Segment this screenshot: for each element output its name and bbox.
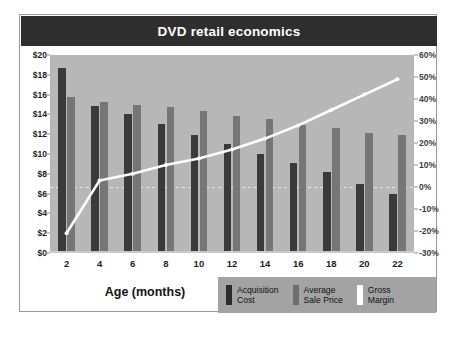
y-axis-right-tick-label: 10%	[419, 160, 436, 170]
y-axis-right-tick-label: 30%	[419, 116, 436, 126]
y-axis-right: -30%-20%-10%0%10%20%30%40%50%60%	[414, 55, 446, 253]
y-axis-left-tick-label: $10	[33, 149, 47, 159]
y-axis-right-tick-label: 50%	[419, 72, 436, 82]
line-swatch-white	[357, 285, 363, 305]
chart-card: DVD retail economics $0$2$4$6$8$10$12$14…	[19, 14, 437, 312]
y-axis-right-tick-label: -20%	[419, 226, 439, 236]
gross-margin-point	[164, 163, 168, 167]
y-axis-right-tick-mark	[414, 99, 418, 100]
y-axis-right-tick-mark	[414, 77, 418, 78]
gross-margin-point	[395, 77, 399, 81]
chart-screenshot: DVD retail economics $0$2$4$6$8$10$12$14…	[0, 0, 456, 340]
x-axis-tick-label: 16	[293, 258, 304, 269]
x-axis-tick-label: 2	[64, 258, 69, 269]
chart-title-bar: DVD retail economics	[21, 16, 437, 46]
x-axis-title: Age (months)	[60, 285, 230, 299]
y-axis-right-tick-label: 20%	[419, 138, 436, 148]
gross-margin-point	[296, 123, 300, 127]
y-axis-right-tick-mark	[414, 187, 418, 188]
gross-margin-point	[131, 172, 135, 176]
legend-item: Gross Margin	[357, 285, 394, 305]
gross-margin-point	[329, 108, 333, 112]
y-axis-right-tick-label: -10%	[419, 204, 439, 214]
gross-margin-point	[230, 148, 234, 152]
gross-margin-polyline	[67, 79, 398, 233]
legend-item-label: Acquisition Cost	[237, 285, 279, 305]
y-axis-right-tick-mark	[414, 121, 418, 122]
y-axis-right-tick-mark	[414, 143, 418, 144]
y-axis-right-tick-mark	[414, 253, 418, 254]
y-axis-right-tick-mark	[414, 231, 418, 232]
y-axis-left-tick-label: $14	[33, 109, 47, 119]
y-axis-left-tick-label: $20	[33, 50, 47, 60]
y-axis-right-tick-label: 60%	[419, 50, 436, 60]
x-axis-tick-label: 14	[260, 258, 271, 269]
plot-area: $0$2$4$6$8$10$12$14$16$18$20 -30%-20%-10…	[50, 55, 414, 253]
gross-margin-point	[98, 178, 102, 182]
y-axis-right-tick-mark	[414, 209, 418, 210]
bar-swatch-gray	[293, 285, 299, 305]
x-axis-tick-label: 10	[194, 258, 205, 269]
bar-swatch-dark	[226, 285, 232, 305]
gross-margin-point	[263, 137, 267, 141]
y-axis-right-tick-label: 40%	[419, 94, 436, 104]
legend-item-label: Gross Margin	[368, 285, 394, 305]
page-title: DVD retail economics	[158, 24, 301, 39]
gross-margin-point	[197, 156, 201, 160]
x-axis-tick-label: 20	[359, 258, 370, 269]
x-axis-tick-label: 22	[392, 258, 403, 269]
gross-margin-line	[50, 55, 414, 253]
x-axis-baseline	[50, 251, 414, 253]
y-axis-right-tick-label: 0%	[419, 182, 431, 192]
x-axis-tick-label: 18	[326, 258, 337, 269]
gross-margin-point	[65, 231, 69, 235]
x-axis-tick-labels: 246810121416182022	[50, 258, 414, 274]
chart-legend: Acquisition CostAverage Sale PriceGross …	[218, 277, 436, 313]
y-axis-right-tick-mark	[414, 55, 418, 56]
x-axis-tick-label: 4	[97, 258, 102, 269]
y-axis-left: $0$2$4$6$8$10$12$14$16$18$20	[22, 55, 50, 253]
gross-margin-point	[362, 93, 366, 97]
x-axis-tick-label: 12	[227, 258, 238, 269]
y-axis-left-tick-label: $12	[33, 129, 47, 139]
y-axis-right-tick-label: -30%	[419, 248, 439, 258]
y-axis-right-tick-mark	[414, 165, 418, 166]
legend-item: Acquisition Cost	[226, 285, 279, 305]
y-axis-left-tick-label: $18	[33, 70, 47, 80]
x-axis-tick-label: 6	[130, 258, 135, 269]
legend-item-label: Average Sale Price	[304, 285, 343, 305]
y-axis-left-tick-label: $16	[33, 90, 47, 100]
legend-item: Average Sale Price	[293, 285, 343, 305]
x-axis-tick-label: 8	[163, 258, 168, 269]
